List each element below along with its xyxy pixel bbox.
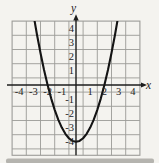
y-tick-label: 1 (69, 65, 74, 76)
y-tick-label: -3 (65, 122, 74, 133)
y-tick-label: 3 (69, 37, 74, 48)
x-tick-label: 4 (130, 86, 136, 97)
y-tick-label: -2 (65, 108, 74, 119)
plot-svg: -4-3-2-112344321-1-2-3-4 x y (0, 0, 159, 163)
x-tick-label: -2 (43, 86, 52, 97)
scan-shadow-band (6, 159, 154, 163)
y-axis-arrow-icon (73, 14, 78, 20)
y-tick-label: -1 (65, 94, 74, 105)
y-axis-label: y (70, 2, 77, 15)
x-tick-label: -4 (15, 86, 24, 97)
y-tick-label: -4 (65, 136, 74, 147)
x-tick-label: 3 (116, 86, 121, 97)
parabola-graph-figure: -4-3-2-112344321-1-2-3-4 x y (0, 0, 159, 163)
y-tick-label: 4 (69, 23, 75, 34)
y-tick-label: 2 (69, 51, 74, 62)
x-tick-label: -3 (29, 86, 38, 97)
x-tick-label: 1 (88, 86, 93, 97)
scan-shadow (6, 159, 154, 163)
x-axis-label: x (145, 79, 152, 91)
x-tick-label: 2 (102, 86, 107, 97)
